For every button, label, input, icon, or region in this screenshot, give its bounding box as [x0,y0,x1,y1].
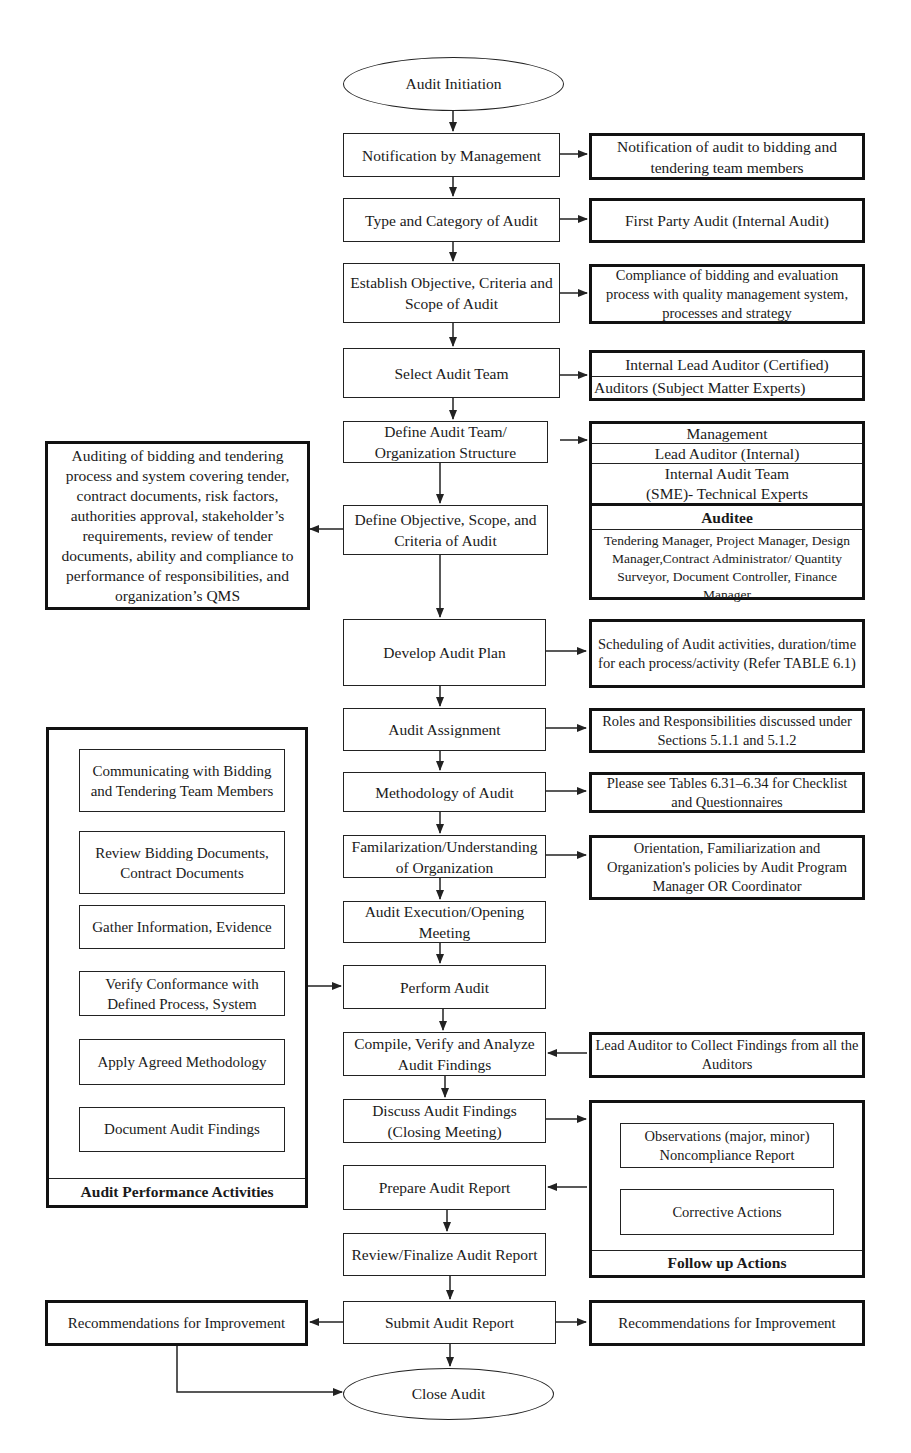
activity-document-findings: Document Audit Findings [79,1107,285,1152]
org-internal-team-line2: (SME)- Technical Experts [592,484,862,504]
note-lead-collect-findings: Lead Auditor to Collect Findings from al… [589,1032,865,1078]
start-node-audit-initiation: Audit Initiation [343,57,564,111]
note-recommendations-left: Recommendations for Improvement [45,1300,308,1346]
note-plan-detail: Scheduling of Audit activities, duration… [589,619,865,688]
step-compile-findings: Compile, Verify and Analyze Audit Findin… [343,1032,546,1076]
team-lead-auditor: Internal Lead Auditor (Certified) [592,353,862,377]
org-management: Management [592,424,862,444]
follow-up-title: Follow up Actions [592,1250,862,1275]
step-prepare-audit-report: Prepare Audit Report [343,1165,546,1210]
step-define-audit-team: Define Audit Team/ Organization Structur… [343,421,548,463]
activity-verify-conformance: Verify Conformance with Defined Process,… [79,971,285,1016]
step-type-and-category: Type and Category of Audit [343,198,560,242]
step-discuss-findings: Discuss Audit Findings (Closing Meeting) [343,1099,546,1143]
step-review-finalize-report: Review/Finalize Audit Report [343,1233,546,1276]
activity-communicating: Communicating with Bidding and Tendering… [79,749,285,812]
step-familiarization: Familarization/Understanding of Organiza… [343,835,546,878]
step-select-audit-team: Select Audit Team [343,348,560,398]
org-auditee-title: Auditee [592,506,862,530]
follow-up-observations: Observations (major, minor) Noncomplianc… [620,1123,834,1168]
note-audit-type: First Party Audit (Internal Audit) [589,198,865,243]
end-node-close-audit: Close Audit [343,1368,554,1420]
step-perform-audit: Perform Audit [343,965,546,1009]
step-define-objective-scope: Define Objective, Scope, and Criteria of… [343,505,548,555]
step-notification-by-management: Notification by Management [343,133,560,177]
note-compliance-scope: Compliance of bidding and evaluation pro… [589,264,865,324]
step-execution-opening-meeting: Audit Execution/Opening Meeting [343,901,546,943]
org-lead-auditor: Lead Auditor (Internal) [592,444,862,464]
activity-gather-information: Gather Information, Evidence [79,905,285,949]
team-auditors: Auditors (Subject Matter Experts) [592,377,862,399]
org-internal-team-line1: Internal Audit Team [592,464,862,484]
group-audit-performance-activities: Communicating with Bidding and Tendering… [46,727,308,1208]
note-methodology-detail: Please see Tables 6.31–6.34 for Checklis… [589,772,865,813]
step-submit-audit-report: Submit Audit Report [343,1301,556,1344]
follow-up-corrective-actions: Corrective Actions [620,1189,834,1235]
step-methodology-of-audit: Methodology of Audit [343,772,546,812]
org-auditee-members: Tendering Manager, Project Manager, Desi… [592,530,862,604]
activity-apply-methodology: Apply Agreed Methodology [79,1039,285,1085]
audit-flowchart: Audit Initiation Notification by Managem… [0,0,911,1453]
step-audit-assignment: Audit Assignment [343,708,546,751]
note-audit-team-composition: Internal Lead Auditor (Certified) Audito… [589,350,865,401]
note-notification-detail: Notification of audit to bidding and ten… [589,133,865,180]
note-familiarization-detail: Orientation, Familiarization and Organiz… [589,835,865,900]
note-audit-scope-detail: Auditing of bidding and tendering proces… [45,441,310,610]
group-follow-up-actions: Observations (major, minor) Noncomplianc… [589,1100,865,1278]
org-internal-audit-team: Internal Audit Team (SME)- Technical Exp… [592,464,862,506]
note-organization-structure: Management Lead Auditor (Internal) Inter… [589,421,865,600]
step-develop-audit-plan: Develop Audit Plan [343,619,546,686]
step-establish-objective: Establish Objective, Criteria and Scope … [343,263,560,323]
performance-group-title: Audit Performance Activities [49,1178,305,1205]
activity-review-documents: Review Bidding Documents, Contract Docum… [79,831,285,894]
note-assignment-detail: Roles and Responsibilities discussed und… [589,708,865,753]
note-recommendations-right: Recommendations for Improvement [589,1300,865,1346]
